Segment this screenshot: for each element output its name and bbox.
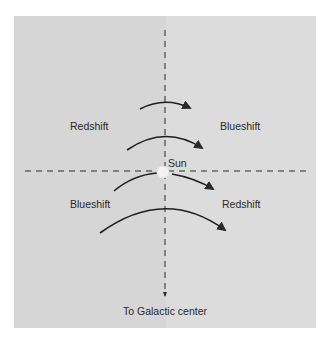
label-upper-left-redshift: Redshift — [70, 120, 109, 132]
galactic-rotation-diagram — [0, 0, 328, 340]
panel-right — [166, 16, 316, 328]
label-lower-right-redshift: Redshift — [222, 198, 261, 210]
label-sun: Sun — [168, 157, 187, 169]
label-lower-left-blueshift: Blueshift — [70, 198, 110, 210]
label-galactic-center: To Galactic center — [123, 305, 207, 317]
label-upper-right-blueshift: Blueshift — [220, 120, 260, 132]
panel-left — [14, 16, 166, 328]
